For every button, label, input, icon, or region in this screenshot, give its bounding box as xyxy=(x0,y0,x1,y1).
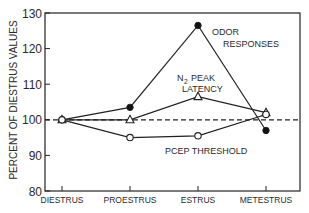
pcep-label: PCEP THRESHOLD xyxy=(165,146,248,156)
y-axis: 8090100110120130 xyxy=(22,7,50,199)
y-tick-label: 90 xyxy=(29,149,43,163)
n2-label-n: N xyxy=(177,73,184,83)
open-circle-marker xyxy=(59,117,65,123)
y-tick-label: 110 xyxy=(23,78,42,92)
filled-circle-marker xyxy=(263,127,269,133)
x-tick-label: ESTRUS xyxy=(181,195,216,205)
x-tick-label: PROESTRUS xyxy=(104,195,157,205)
series-line xyxy=(62,114,266,137)
filled-circle-marker xyxy=(195,22,201,28)
y-tick-label: 100 xyxy=(22,113,42,127)
open-circle-marker xyxy=(127,134,133,140)
y-tick-label: 120 xyxy=(22,42,42,56)
odor-label-line2: RESPONSES xyxy=(223,39,279,49)
x-tick-label: METESTRUS xyxy=(240,195,293,205)
series-line xyxy=(62,97,266,120)
open-circle-marker xyxy=(195,133,201,139)
odor-label-line1: ODOR xyxy=(212,27,240,37)
x-axis: DIESTRUSPROESTRUSESTRUSMETESTRUS xyxy=(41,186,293,205)
n2-label-peak: PEAK xyxy=(191,73,215,83)
y-axis-label: PERCENT OF DIESTRUS VALUES xyxy=(8,20,19,179)
open-circle-marker xyxy=(263,111,269,117)
x-tick-label: DIESTRUS xyxy=(41,195,84,205)
n2-label-line2: LATENCY xyxy=(182,84,223,94)
filled-circle-marker xyxy=(127,104,133,110)
y-tick-label: 130 xyxy=(22,7,42,21)
line-chart: 8090100110120130 DIESTRUSPROESTRUSESTRUS… xyxy=(0,0,309,213)
